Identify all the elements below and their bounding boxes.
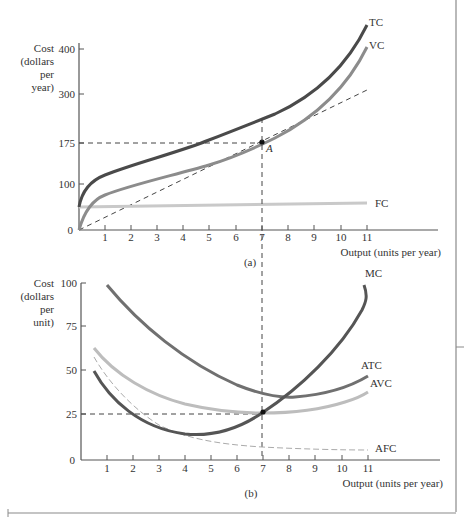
panel-a-ylabel-line-2: (dollars <box>20 55 54 68</box>
atc-curve <box>107 285 368 397</box>
panel-b-xtick: 10 <box>337 462 349 474</box>
vc-label: VC <box>369 39 384 51</box>
panel-a-xlabel: Output (units per year) <box>341 246 442 259</box>
afc-label: AFC <box>375 442 396 454</box>
panel-b-ytick-25: 25 <box>66 408 78 420</box>
avc-label: AVC <box>370 377 392 389</box>
panel-a-xtick: 8 <box>285 231 291 243</box>
panel-a-xtick: 6 <box>233 231 239 243</box>
panel-b-xtick: 8 <box>286 462 292 474</box>
panel-b-x-tick-labels: 1 2 3 4 5 6 7 8 9 10 11 <box>104 462 373 474</box>
panel-b-xtick: 2 <box>130 462 136 474</box>
panel-a-xtick: 3 <box>154 231 160 243</box>
panel-b-xtick: 1 <box>104 462 110 474</box>
panel-a-xtick: 4 <box>180 231 186 243</box>
panel-a-ylabel-line-1: Cost <box>34 42 54 54</box>
afc-curve <box>94 357 368 450</box>
panel-b-ylabel-line-1: Cost <box>34 277 54 289</box>
panel-a-ylabel-line-3: per <box>40 68 54 80</box>
panel-b-ytick-75: 75 <box>66 320 78 332</box>
panel-b-x-ticks <box>107 455 368 460</box>
panel-b-ylabel-line-3: per <box>40 303 54 315</box>
fc-label: FC <box>375 197 388 209</box>
panel-a-xtick: 5 <box>206 231 212 243</box>
panel-a-label: (a) <box>244 256 257 269</box>
panel-a-y-ticks <box>79 49 84 184</box>
panel-b-ylabel-line-4: unit) <box>33 316 54 329</box>
panel-b-xtick: 4 <box>182 462 188 474</box>
panel-b-ylabel-line-2: (dollars <box>20 290 54 303</box>
panel-b-xtick: 11 <box>363 462 374 474</box>
panel-b-label: (b) <box>245 487 258 500</box>
mc-avc-intersection-marker <box>260 409 265 414</box>
panel-b-xtick: 9 <box>312 462 318 474</box>
cost-curves-figure: Cost (dollars per year) 400 300 175 100 … <box>0 0 464 528</box>
panel-b-xtick: 3 <box>156 462 162 474</box>
panel-a-ytick-100: 100 <box>59 178 76 190</box>
panel-b-y-ticks <box>81 283 86 414</box>
panel-a-x-tick-labels: 1 2 3 4 5 6 7 8 9 10 11 <box>102 231 372 243</box>
panel-a-xtick: 11 <box>362 231 373 243</box>
fc-curve <box>79 203 367 207</box>
panel-a-ytick-400: 400 <box>59 43 76 55</box>
tc-curve <box>79 25 367 207</box>
panel-a-ytick-0: 0 <box>68 224 74 236</box>
panel-a-ylabel-line-4: year) <box>31 81 54 94</box>
panel-a: Cost (dollars per year) 400 300 175 100 … <box>20 16 441 269</box>
panel-b-ytick-100: 100 <box>61 277 78 289</box>
panel-a-xtick: 9 <box>311 231 317 243</box>
panel-a-xtick: 10 <box>336 231 348 243</box>
panel-a-ytick-300: 300 <box>59 88 76 100</box>
panel-a-xtick: 2 <box>128 231 134 243</box>
point-a-label: A <box>265 142 273 154</box>
mc-label: MC <box>365 267 382 279</box>
panel-a-xtick: 1 <box>102 231 108 243</box>
panel-b-xtick: 6 <box>234 462 240 474</box>
panel-a-ytick-175: 175 <box>59 137 76 149</box>
panel-b-xlabel: Output (units per year) <box>343 477 444 490</box>
panel-b: Cost (dollars per unit) 100 75 50 25 0 <box>20 267 443 500</box>
panel-b-xtick: 7 <box>260 462 266 474</box>
panel-b-ytick-50: 50 <box>66 364 78 376</box>
panel-b-ytick-0: 0 <box>70 454 76 466</box>
panel-a-x-ticks <box>105 225 367 230</box>
atc-label: ATC <box>361 359 382 371</box>
panel-b-xtick: 5 <box>208 462 214 474</box>
tc-label: TC <box>369 16 383 28</box>
